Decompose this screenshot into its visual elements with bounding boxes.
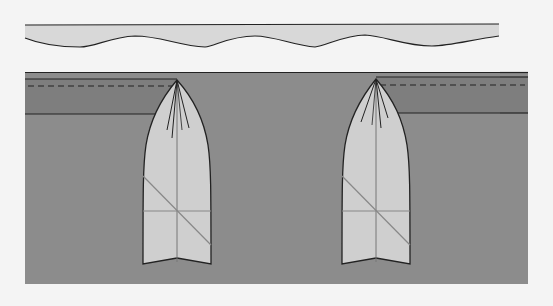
pleat-diagram [0,0,553,306]
waistband-left [25,79,177,114]
wavy-strip [25,24,499,47]
